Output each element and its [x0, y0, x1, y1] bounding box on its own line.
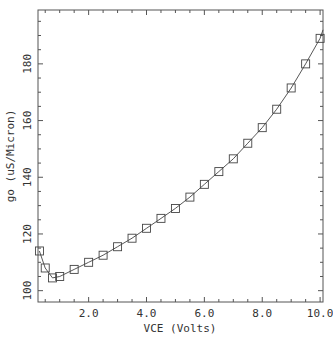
y-tick-label: 180	[21, 54, 34, 74]
data-line	[39, 30, 323, 278]
x-tick-label: 6.0	[194, 307, 214, 320]
data-markers	[35, 34, 324, 282]
y-tick-label: 120	[21, 224, 34, 244]
y-tick-label: 100	[21, 281, 34, 301]
line-chart: 100120140160180 2.04.06.08.010.0 VCE (Vo…	[0, 0, 333, 342]
y-axis-label: go (uS/Micron)	[4, 110, 17, 203]
x-tick-label: 10.0	[307, 307, 333, 320]
y-tick-label: 140	[21, 167, 34, 187]
x-axis-label: VCE (Volts)	[144, 322, 217, 335]
y-tick-label: 160	[21, 111, 34, 131]
y-axis-ticks: 100120140160180	[21, 21, 323, 300]
x-tick-label: 8.0	[252, 307, 272, 320]
plot-frame	[38, 10, 323, 302]
x-axis-ticks: 2.04.06.08.010.0	[45, 10, 333, 320]
x-tick-label: 2.0	[79, 307, 99, 320]
x-tick-label: 4.0	[137, 307, 157, 320]
